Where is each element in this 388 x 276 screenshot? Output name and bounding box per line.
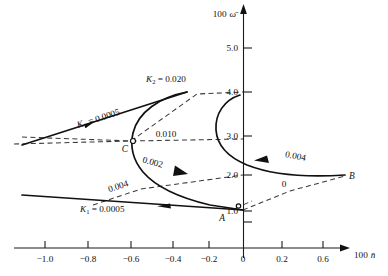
xtick-label-0.2: 0.2 <box>276 254 288 264</box>
figure-root: −1.0 −0.8 −0.6 −0.4 −0.2 0 0.2 0.6 100n̄… <box>0 0 388 276</box>
k2-label-eq: = 0.020 <box>155 74 186 84</box>
value-0.004-right-group: 0.004 <box>284 149 307 163</box>
ytick-label-3.0: 3.0 <box>227 131 239 141</box>
y-axis-title-var: ω̄ <box>230 9 239 19</box>
x-axis-arrowhead <box>340 245 350 252</box>
value-label-0.010: 0.010 <box>156 129 177 139</box>
xtick-label--0.6: −0.6 <box>123 254 140 264</box>
k-0010-dashed-path <box>14 139 243 144</box>
k1-upper-label-eq: = 0.0005 <box>85 107 122 127</box>
value-label-0.004-right: 0.004 <box>284 149 307 163</box>
value-label-0.002: 0.002 <box>142 154 165 169</box>
k-0002-arrowhead <box>173 166 188 177</box>
value-label-0.004-left: 0.004 <box>107 178 130 194</box>
k-0-dashed-path <box>243 176 345 210</box>
xtick-label-0: 0 <box>241 254 246 264</box>
xtick-label--0.8: −0.8 <box>80 254 97 264</box>
xtick-label--0.4: −0.4 <box>165 254 182 264</box>
x-axis-title: 100n̄ <box>354 250 376 260</box>
x-axis-title-var: n̄ <box>371 250 376 260</box>
labels-group: −1.0 −0.8 −0.6 −0.4 −0.2 0 0.2 0.6 100n̄… <box>37 9 376 264</box>
root-plot-svg: −1.0 −0.8 −0.6 −0.4 −0.2 0 0.2 0.6 100n̄… <box>0 0 388 276</box>
x-axis-title-num: 100 <box>354 250 368 260</box>
k1-upper-label-group: K1 = 0.0005 <box>75 107 122 132</box>
xtick-label-0.6: 0.6 <box>317 254 329 264</box>
point-label-b: B <box>349 171 355 181</box>
k1-lower-label: K1 = 0.0005 <box>79 204 125 215</box>
k1-lower-line <box>22 195 243 210</box>
ytick-label-1.0: 1.0 <box>227 206 239 216</box>
point-c-marker <box>131 139 136 144</box>
xtick-label--1.0: −1.0 <box>37 254 54 264</box>
ytick-label-2.0: 2.0 <box>227 170 239 180</box>
ytick-label-5.0: 5.0 <box>227 43 239 53</box>
k2-label: K2 = 0.020 <box>145 74 186 85</box>
k-0004-arrowhead <box>254 156 269 164</box>
value-label-0: 0 <box>282 179 287 189</box>
value-0.004-left-group: 0.004 <box>107 178 130 194</box>
value-0.002-group: 0.002 <box>142 154 165 169</box>
point-label-c: C <box>122 144 129 154</box>
point-label-a: A <box>218 213 225 223</box>
ytick-label-4.0: 4.0 <box>227 87 239 97</box>
y-axis-title-num: 100 <box>213 9 227 19</box>
y-axis-arrowhead <box>240 4 247 14</box>
y-axis-title: 100ω̄ <box>213 9 239 19</box>
xtick-label--0.2: −0.2 <box>201 254 218 264</box>
k1-lower-label-eq: = 0.0005 <box>89 204 124 214</box>
k1-upper-label: K1 = 0.0005 <box>75 107 122 132</box>
